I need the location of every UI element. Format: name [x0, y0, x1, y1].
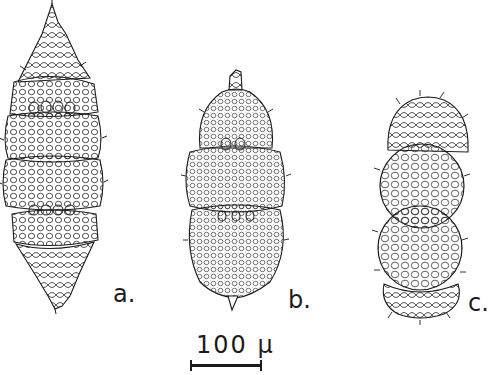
specimen-c-label: c. — [468, 291, 489, 315]
scale-bar — [190, 364, 262, 367]
specimen-c-drawing — [372, 90, 470, 325]
specimen-b-drawing — [181, 70, 291, 310]
figure-plate: a. b. c. 100 µ — [0, 0, 497, 375]
specimen-a-drawing — [0, 0, 108, 314]
scale-bar-label: 100 µ — [196, 333, 275, 357]
specimen-illustrations — [0, 0, 497, 375]
specimen-a-label: a. — [113, 282, 135, 306]
specimen-b-label: b. — [288, 288, 311, 312]
